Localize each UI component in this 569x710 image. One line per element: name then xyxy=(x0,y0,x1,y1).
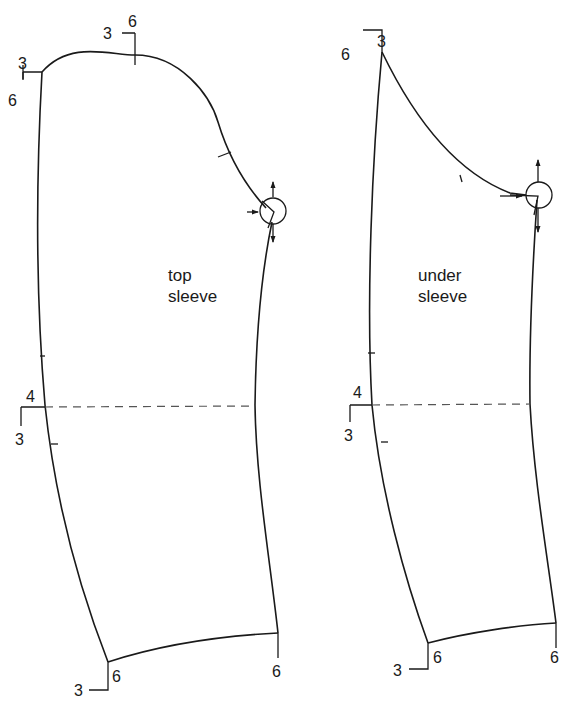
top-sleeve-label-line2: sleeve xyxy=(168,287,217,307)
top-elbow-mark-a: 4 xyxy=(26,389,35,405)
under-sleeve-marks xyxy=(350,30,556,669)
top-crown-top-mark-b: 6 xyxy=(128,14,137,30)
under-elbow-mark-a: 4 xyxy=(353,385,362,401)
top-hem-right-mark: 6 xyxy=(272,664,281,680)
top-sleeve-marks xyxy=(21,33,286,690)
under-sleeve-label-line2: sleeve xyxy=(418,287,467,307)
top-hem-left-mark-a: 6 xyxy=(112,669,121,685)
under-elbow-mark-b: 3 xyxy=(344,428,353,444)
top-sleeve-elbow-line xyxy=(45,406,255,407)
under-sleeve-outline xyxy=(370,52,556,643)
top-hem-left-mark-b: 3 xyxy=(74,683,83,699)
under-hem-left-mark-a: 6 xyxy=(433,650,442,666)
top-sleeve-outline xyxy=(38,51,278,662)
top-crown-left-mark-b: 6 xyxy=(8,93,17,109)
top-elbow-mark-b: 3 xyxy=(15,432,24,448)
under-hem-right-mark: 6 xyxy=(550,650,559,666)
top-crown-left-mark-a: 3 xyxy=(18,56,27,72)
top-sleeve-label-line1: top xyxy=(168,266,192,286)
under-sleeve-label-line1: under xyxy=(418,266,461,286)
under-crown-mark-a: 6 xyxy=(341,47,350,63)
sleeve-pattern-diagram xyxy=(0,0,569,710)
top-crown-top-mark-a: 3 xyxy=(103,26,112,42)
under-crown-mark-b: 3 xyxy=(377,34,386,50)
under-sleeve-elbow-line xyxy=(372,404,530,405)
under-hem-left-mark-b: 3 xyxy=(393,663,402,679)
